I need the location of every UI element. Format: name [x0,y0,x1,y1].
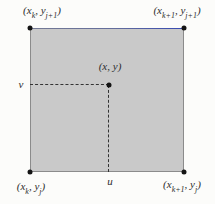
label-subscript: j [195,185,197,194]
corner-dot-bottom-right [182,170,187,175]
label-text: , y [35,4,45,16]
label-subscript: k+1 [172,185,185,194]
label-bottom-right-corner: (xk+1, yj) [163,179,201,190]
label-subscript: k [25,187,29,196]
interior-point-dot [107,83,112,88]
label-text: , y [29,180,39,192]
label-subscript: j+1 [185,11,197,20]
label-text: ) [57,4,61,16]
label-subscript: k+1 [162,11,175,20]
label-text: , y [175,4,185,16]
label-text: (x [153,4,162,16]
label-text: (x [23,4,32,16]
label-interior-point: (x, y) [99,61,122,72]
dashed-line-to-v [30,84,109,85]
dashed-line-to-u [108,85,109,172]
label-text: ) [197,178,201,190]
corner-dot-top-left [28,26,33,31]
label-text: , y [185,178,195,190]
label-subscript: j [39,187,41,196]
label-text: (x [163,178,172,190]
square-top-edge-accent [30,28,184,30]
label-v: v [19,79,24,90]
label-text: (x [17,180,26,192]
label-top-right-corner: (xk+1, yj+1) [153,5,200,16]
grid-cell-square [30,28,184,172]
label-u: u [107,176,113,187]
grid-cell-diagram: (xk, yj+1) (xk+1, yj+1) (xk, yj) (xk+1, … [0,0,215,204]
label-text: ) [42,180,46,192]
label-text: ) [197,4,201,16]
label-subscript: j+1 [46,11,58,20]
label-subscript: k [32,11,36,20]
corner-dot-bottom-left [28,170,33,175]
label-bottom-left-corner: (xk, yj) [17,181,45,192]
corner-dot-top-right [182,26,187,31]
label-top-left-corner: (xk, yj+1) [23,5,61,16]
